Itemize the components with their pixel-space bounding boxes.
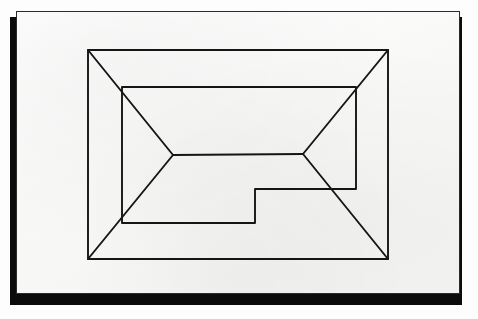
paper-texture-overlay [17, 12, 459, 293]
paper-sheet [16, 11, 460, 294]
scene-root [0, 0, 478, 319]
